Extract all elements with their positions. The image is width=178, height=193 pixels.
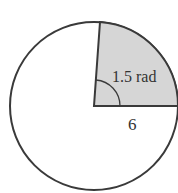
sector-diagram: 1.5 rad 6 bbox=[0, 0, 178, 193]
shaded-sector bbox=[94, 22, 178, 106]
angle-label: 1.5 rad bbox=[112, 68, 156, 85]
radius-label: 6 bbox=[128, 115, 137, 134]
